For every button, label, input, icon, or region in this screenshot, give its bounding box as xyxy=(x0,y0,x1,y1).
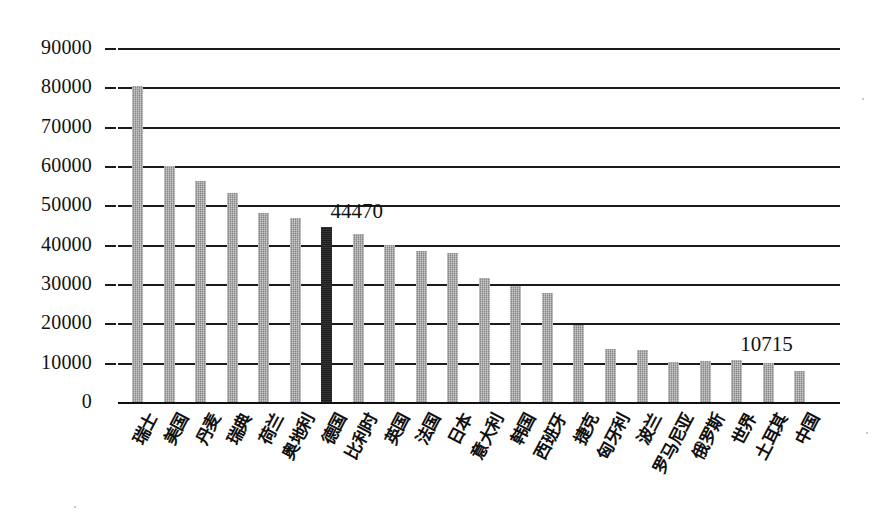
bar xyxy=(227,193,238,402)
gridline xyxy=(118,127,840,129)
scan-speck xyxy=(862,98,864,100)
x-axis-category-labels: 瑞士美国丹麦瑞典荷兰奥地利德国比利时英国法国日本意大利韩国西班牙捷克匈牙利波兰罗… xyxy=(118,404,840,522)
bar xyxy=(132,86,143,402)
y-axis-tick-label: 0 xyxy=(6,391,92,411)
y-axis-tick-label: 60000 xyxy=(6,155,92,175)
y-axis-labels: 0100002000030000400005000060000700008000… xyxy=(0,48,92,402)
y-axis-tick xyxy=(105,87,116,89)
y-axis-tick-label: 40000 xyxy=(6,234,92,254)
gridline xyxy=(118,48,840,50)
y-axis-tick-label: 70000 xyxy=(6,116,92,136)
y-axis-tick-label: 90000 xyxy=(6,37,92,57)
y-axis-tick-label: 50000 xyxy=(6,194,92,214)
plot-area: 4447010715 xyxy=(118,48,840,402)
scan-speck xyxy=(866,432,868,434)
y-axis-tick xyxy=(105,284,116,286)
scan-speck xyxy=(74,506,76,508)
data-label: 10715 xyxy=(740,334,793,355)
bar xyxy=(290,218,301,402)
y-axis-tick-label: 10000 xyxy=(6,352,92,372)
y-axis-tick xyxy=(105,48,116,50)
y-axis-tick-label: 30000 xyxy=(6,273,92,293)
bar xyxy=(258,213,269,402)
data-label: 44470 xyxy=(330,201,383,222)
y-axis-tick xyxy=(105,127,116,129)
bar-chart-figure: 0100002000030000400005000060000700008000… xyxy=(0,0,886,524)
bar xyxy=(353,234,364,402)
y-axis-tick xyxy=(105,166,116,168)
bar xyxy=(164,166,175,402)
y-axis-tick xyxy=(105,323,116,325)
y-axis-tick xyxy=(105,363,116,365)
y-axis-tick-label: 80000 xyxy=(6,76,92,96)
bar xyxy=(195,181,206,402)
bar xyxy=(416,251,427,402)
y-axis-tick xyxy=(105,205,116,207)
gridline xyxy=(118,87,840,89)
gridline xyxy=(118,166,840,168)
y-axis-tick xyxy=(105,245,116,247)
y-axis-tick-label: 20000 xyxy=(6,312,92,332)
bar xyxy=(447,253,458,402)
